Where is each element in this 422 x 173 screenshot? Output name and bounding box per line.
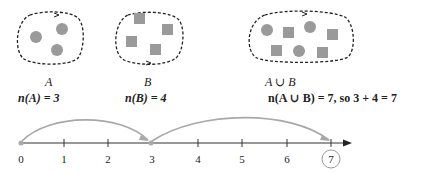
set-b-count: n(B) = 4: [125, 92, 167, 104]
set-b-label: B: [144, 76, 151, 88]
union-label: A ∪ B: [265, 76, 296, 88]
set-a-boundary: [17, 12, 83, 64]
arrow-icon: [54, 13, 59, 17]
set-a-label: A: [45, 76, 52, 88]
arrow-icon: [146, 61, 151, 65]
tick-label-0: 0: [18, 154, 24, 165]
number-line: [19, 118, 353, 147]
set-a-count: n(A) = 3: [18, 92, 60, 104]
set-b-element: [126, 36, 137, 47]
set-b-boundary: [116, 12, 183, 64]
union-element: [293, 45, 305, 57]
union-element: [304, 21, 316, 33]
union-count: n(A ∪ B) = 7, so 3 + 4 = 7: [268, 92, 397, 104]
union-element: [261, 24, 273, 36]
set-a-element: [56, 23, 68, 35]
arrow-icon: [302, 12, 307, 16]
arrow-head-icon: [343, 140, 352, 147]
set-b-element: [134, 13, 145, 24]
union-element: [271, 45, 282, 56]
tick-label-2: 2: [105, 154, 111, 165]
set-a-element: [30, 31, 42, 43]
tick-label-6: 6: [284, 154, 290, 165]
set-union: [249, 11, 353, 62]
jump-arc-0-3: [22, 120, 148, 141]
union-element: [327, 29, 338, 40]
set-b: [116, 12, 183, 65]
set-b-element: [162, 24, 173, 35]
set-a-element: [51, 44, 63, 56]
tick-label-1: 1: [61, 154, 67, 165]
tick-label-5: 5: [239, 154, 245, 165]
set-b-element: [150, 44, 161, 55]
union-element: [317, 47, 328, 58]
tick-label-7: 7: [328, 154, 334, 165]
set-a: [17, 12, 83, 64]
set-union-diagram: [0, 0, 422, 173]
tick-label-4: 4: [195, 154, 201, 165]
arc-arrow-icon: [320, 135, 330, 141]
jump-arc-3-7: [152, 118, 329, 141]
union-element: [283, 27, 294, 38]
tick-label-3: 3: [149, 154, 155, 165]
